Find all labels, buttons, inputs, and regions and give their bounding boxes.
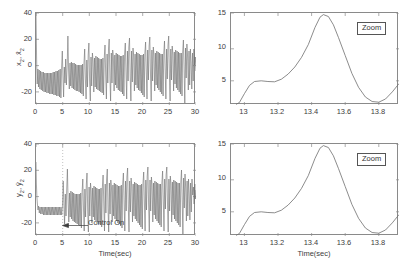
xtick-bottom-left-0: 0 (27, 239, 43, 247)
ytick-top-right-15: 15 (210, 9, 226, 17)
xtick-bottom-left-25: 25 (160, 239, 176, 247)
xtick-bottom-right-13p2: 13.2 (265, 239, 289, 247)
xtick-top-left-10: 10 (80, 108, 96, 116)
ytick-top-right-10: 10 (210, 43, 226, 51)
ytick-bottom-right-5: 5 (210, 207, 226, 215)
ytick-bottom-left-0: 0 (16, 192, 32, 200)
ytick-bottom-right-15: 15 (210, 140, 226, 148)
xtick-bottom-left-5: 5 (54, 239, 70, 247)
ytick-bottom-right-10: 10 (210, 174, 226, 182)
zoom-badge-bottom-right: Zoom (357, 153, 386, 166)
panel-top-right: 15 10 5 (203, 0, 406, 131)
xtick-top-right-13p4: 13.4 (299, 108, 323, 116)
xtick-top-right-13: 13 (235, 108, 252, 116)
xtick-bottom-right-13p4: 13.4 (299, 239, 323, 247)
panel-top-left: x2, x̂2 40 20 0 -20 (0, 0, 203, 131)
zoom-badge-top-right: Zoom (357, 22, 386, 35)
ytick-top-left-0: 0 (16, 61, 32, 69)
xtick-top-left-20: 20 (134, 108, 150, 116)
xtick-top-left-25: 25 (160, 108, 176, 116)
figure-canvas: x2, x̂2 40 20 0 -20 (0, 0, 406, 262)
panel-bottom-right: 15 10 5 (203, 131, 406, 262)
xtick-top-left-30: 30 (187, 108, 203, 116)
plot-top-left (36, 13, 196, 105)
ytick-bottom-left-20: 20 (16, 166, 32, 174)
xtick-top-right-13p6: 13.6 (332, 108, 356, 116)
xtick-top-left-5: 5 (54, 108, 70, 116)
xtick-bottom-left-30: 30 (187, 239, 203, 247)
ytick-bottom-left-40: 40 (16, 140, 32, 148)
panel-bottom-left: y2, ŷ2 40 20 0 -20 (0, 131, 203, 262)
ytick-top-left-40: 40 (16, 9, 32, 17)
xtick-top-left-0: 0 (27, 108, 43, 116)
axes-top-left (35, 12, 195, 104)
ytick-top-left-20: 20 (16, 35, 32, 43)
xtick-bottom-left-15: 15 (107, 239, 123, 247)
xtick-bottom-left-10: 10 (80, 239, 96, 247)
xtick-top-left-15: 15 (107, 108, 123, 116)
xtick-bottom-right-13: 13 (235, 239, 252, 247)
xtick-bottom-right-13p8: 13.8 (366, 239, 390, 247)
control-on-label: Control On (88, 219, 124, 227)
xtick-top-right-13p8: 13.8 (366, 108, 390, 116)
axis-label-x-bottom-right: Time(sec) (279, 250, 349, 258)
xtick-bottom-left-20: 20 (134, 239, 150, 247)
xtick-bottom-right-13p6: 13.6 (332, 239, 356, 247)
axis-label-x-bottom-left: Time(sec) (80, 250, 150, 258)
ytick-top-right-5: 5 (210, 76, 226, 84)
ytick-top-left-neg20: -20 (12, 88, 32, 96)
ytick-bottom-left-neg20: -20 (12, 219, 32, 227)
xtick-top-right-13p2: 13.2 (265, 108, 289, 116)
